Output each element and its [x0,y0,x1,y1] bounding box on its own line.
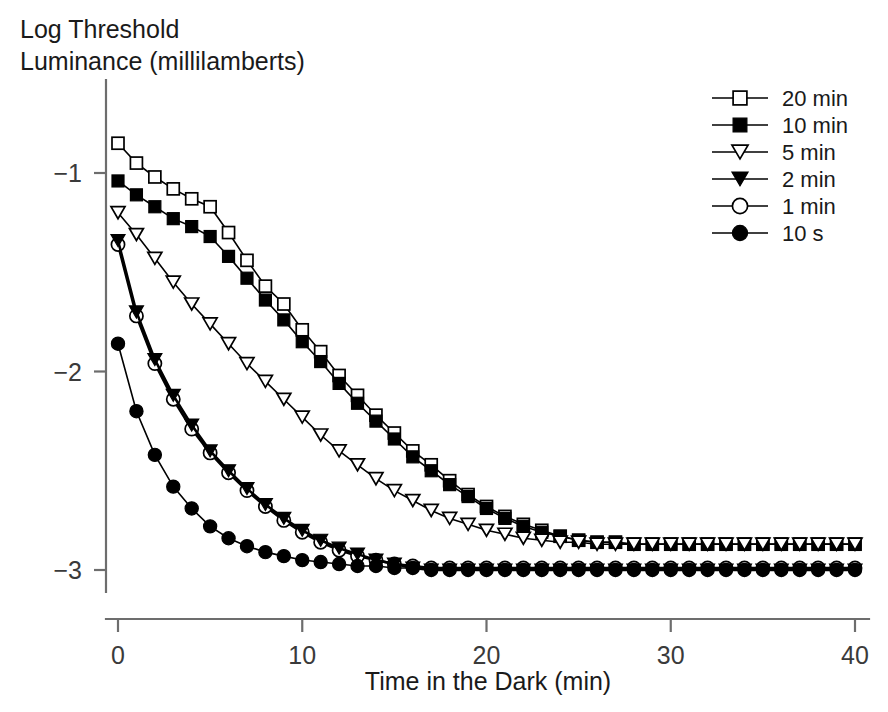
legend-label: 10 min [782,113,848,138]
data-marker-square-filled [223,250,235,262]
y-tick-group: −1−2−3 [53,159,106,584]
x-tick-group: 010203040 [111,619,869,669]
data-marker-circle-filled [130,405,143,418]
data-marker-square-open [259,280,271,292]
data-marker-square-open [186,193,198,205]
data-marker-square-filled [407,451,419,463]
data-marker-square-filled [462,491,474,503]
legend-item-2-min[interactable]: 2 min [712,167,836,192]
data-marker-square-filled [278,314,290,326]
data-marker-square-filled [481,502,493,514]
data-marker-triangle-down-open [148,252,162,264]
x-axis: 010203040 [106,619,869,669]
data-marker-square-open [241,254,253,266]
data-marker-square-open [278,298,290,310]
data-marker-square-filled [425,465,437,477]
data-marker-circle-filled [167,480,180,493]
data-marker-square-filled [444,479,456,491]
y-tick-label: −1 [53,159,82,187]
data-marker-circle-filled [406,561,419,574]
data-marker-triangle-down-open [369,473,383,485]
data-marker-triangle-down-open [387,485,401,497]
data-marker-square-filled [315,356,327,368]
data-marker-triangle-down-open [406,495,420,507]
chart-legend: 20 min10 min5 min2 min1 min10 s [712,86,848,246]
legend-item-10-s[interactable]: 10 s [712,221,824,246]
data-marker-circle-filled [498,563,511,576]
data-marker-circle-filled [240,540,253,553]
data-marker-circle-filled [369,559,382,572]
legend-item-5-min[interactable]: 5 min [712,140,836,165]
data-marker-triangle-down-open [111,207,125,219]
x-axis-label: Time in the Dark (min) [365,667,611,695]
data-marker-triangle-down-open [166,276,180,288]
legend-label: 10 s [782,221,824,246]
data-marker-square-open [149,171,161,183]
legend-item-1-min[interactable]: 1 min [712,194,836,219]
legend-label: 5 min [782,140,836,165]
data-marker-circle-filled [554,563,567,576]
data-marker-square-filled [370,415,382,427]
data-marker-square-filled [241,272,253,284]
data-marker-circle-filled [204,520,217,533]
y-tick-label: −3 [53,556,82,584]
data-marker-circle-filled [627,563,640,576]
x-tick-label: 20 [473,641,501,669]
data-marker-circle-filled [572,563,585,576]
data-marker-square-open [733,91,747,105]
y-axis: −1−2−3 [53,80,106,592]
data-marker-circle-filled [812,563,825,576]
legend-item-20-min[interactable]: 20 min [712,86,848,111]
data-marker-circle-filled [425,563,438,576]
data-marker-square-filled [733,118,747,132]
y-axis-label-line2: Luminance (millilamberts) [20,47,305,75]
data-marker-square-open [296,324,308,336]
data-marker-square-filled [186,221,198,233]
data-marker-square-filled [296,336,308,348]
data-marker-circle-filled [296,553,309,566]
data-marker-square-filled [333,377,345,389]
y-axis-label-line1: Log Threshold [20,15,179,43]
data-marker-circle-filled [111,337,124,350]
x-tick-label: 0 [111,641,125,669]
data-marker-square-filled [499,512,511,524]
data-marker-square-open [130,157,142,169]
y-tick-label: −2 [53,358,82,386]
data-marker-circle-filled [738,563,751,576]
data-marker-square-open [204,201,216,213]
x-tick-label: 10 [288,641,316,669]
data-marker-circle-filled [259,546,272,559]
data-marker-circle-filled [185,502,198,515]
data-marker-square-filled [149,201,161,213]
data-marker-circle-filled [517,563,530,576]
legend-label: 20 min [782,86,848,111]
data-marker-circle-filled [756,563,769,576]
data-marker-circle-filled [148,448,161,461]
data-marker-square-filled [517,520,529,532]
data-marker-circle-filled [333,557,346,570]
data-marker-circle-filled [830,563,843,576]
x-tick-label: 30 [657,641,685,669]
data-marker-circle-filled [732,225,747,240]
series-group [111,137,862,576]
data-marker-circle-open [732,198,747,213]
data-marker-square-open [112,137,124,149]
x-tick-label: 40 [841,641,869,669]
series-polyline [118,240,855,570]
data-marker-circle-filled [609,563,622,576]
dark-adaptation-chart: Log Threshold Luminance (millilamberts) … [0,0,888,712]
data-marker-circle-filled [388,561,401,574]
data-marker-triangle-down-open [129,229,143,241]
legend-item-10-min[interactable]: 10 min [712,113,848,138]
data-marker-circle-filled [664,563,677,576]
data-marker-circle-filled [793,563,806,576]
chart-page: Log Threshold Luminance (millilamberts) … [0,0,888,712]
data-marker-circle-filled [646,563,659,576]
data-marker-circle-filled [443,563,456,576]
data-marker-circle-filled [719,563,732,576]
legend-label: 2 min [782,167,836,192]
data-marker-triangle-down-open [480,524,494,536]
data-marker-square-filled [259,294,271,306]
data-marker-circle-filled [480,563,493,576]
data-marker-circle-filled [277,550,290,563]
